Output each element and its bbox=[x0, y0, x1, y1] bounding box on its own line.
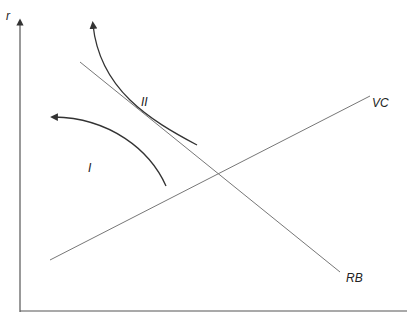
region-i-label: I bbox=[88, 161, 92, 175]
vc-line bbox=[50, 96, 370, 260]
vc-label: VC bbox=[372, 96, 389, 110]
y-axis-label: r bbox=[6, 9, 11, 23]
curve-i-arrow bbox=[54, 117, 166, 186]
rb-line bbox=[80, 62, 340, 272]
region-ii-label: II bbox=[141, 95, 148, 109]
diagram-canvas: r RB VC II I bbox=[0, 0, 407, 324]
rb-label: RB bbox=[346, 271, 363, 285]
axes: r bbox=[6, 9, 407, 312]
